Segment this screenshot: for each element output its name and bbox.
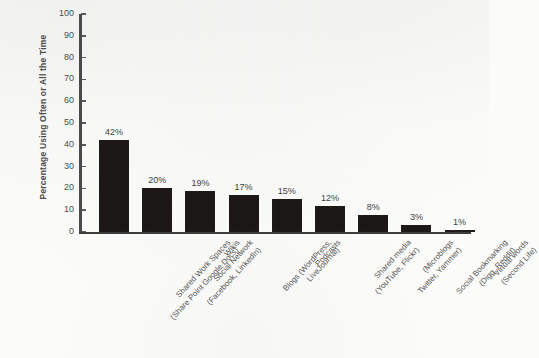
y-axis-tick-label: 20 [40, 182, 74, 192]
y-axis-tick-label: 70 [40, 73, 74, 83]
bar[interactable] [272, 199, 302, 232]
bar-value-label: 17% [235, 182, 253, 192]
bar[interactable] [445, 230, 475, 232]
bar-group[interactable]: 15% [272, 14, 302, 232]
bar-value-label: 1% [453, 217, 466, 227]
bar-group[interactable]: 8% [358, 14, 388, 232]
y-axis-tick-label: 100 [40, 8, 74, 18]
y-axis-tick-label: 10 [40, 204, 74, 214]
bar-value-label: 42% [105, 127, 123, 137]
bar-value-label: 19% [191, 178, 209, 188]
bar-group[interactable]: 20% [142, 14, 172, 232]
bar[interactable] [229, 195, 259, 232]
bar[interactable] [358, 215, 388, 232]
bar-value-label: 20% [148, 175, 166, 185]
bar[interactable] [99, 140, 129, 232]
plot-area: 42%20%19%17%15%12%8%3%1% [82, 14, 471, 232]
x-axis-line [79, 232, 471, 234]
y-axis-tick-label: 50 [40, 117, 74, 127]
bar-group[interactable]: 1% [445, 14, 475, 232]
bar[interactable] [315, 206, 345, 232]
bar-group[interactable]: 19% [185, 14, 215, 232]
bar[interactable] [142, 188, 172, 232]
x-axis-category-labels: Shared Work Spaces(Share Point Google Do… [0, 236, 489, 358]
bar-value-label: 3% [410, 212, 423, 222]
y-axis-tick-label: 90 [40, 30, 74, 40]
y-axis-tick-label: 80 [40, 52, 74, 62]
bar-group[interactable]: 3% [401, 14, 431, 232]
bar-group[interactable]: 12% [315, 14, 345, 232]
x-axis-label: Shared media(YouTube, Flickr) [365, 238, 422, 296]
y-axis-tick-label: 30 [40, 161, 74, 171]
bar-group[interactable]: 42% [99, 14, 129, 232]
bar[interactable] [185, 191, 215, 232]
bar-value-label: 12% [321, 193, 339, 203]
bar[interactable] [401, 225, 431, 232]
bar-value-label: 8% [367, 202, 380, 212]
bar-group[interactable]: 17% [229, 14, 259, 232]
y-axis-tick-label: 40 [40, 139, 74, 149]
y-axis-tick-label: 60 [40, 95, 74, 105]
y-axis-tick-label: 0 [40, 226, 74, 236]
bar-value-label: 15% [278, 186, 296, 196]
